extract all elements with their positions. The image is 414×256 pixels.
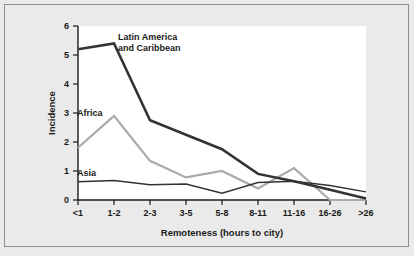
y-tick-label: 6 [64, 21, 69, 31]
x-tick-label: 8-11 [249, 208, 267, 218]
y-tick-label: 2 [64, 137, 69, 147]
y-axis-tick-labels: 0123456 [64, 21, 69, 205]
x-tick-label: 1-2 [107, 208, 120, 218]
y-tick-label: 1 [64, 166, 69, 176]
chart-svg: 0123456 <11-22-33-55-88-1111-1616-26>26 … [0, 0, 414, 256]
figure-container: 0123456 <11-22-33-55-88-1111-1616-26>26 … [0, 0, 414, 256]
x-tick-label: 11-16 [283, 208, 306, 218]
series-label-latin-america-and-caribbean: Latin America [118, 32, 178, 42]
x-tick-label: >26 [358, 208, 373, 218]
x-axis-ticks [78, 200, 366, 205]
y-tick-label: 5 [64, 50, 69, 60]
y-tick-label: 3 [64, 108, 69, 118]
x-tick-label: <1 [73, 208, 83, 218]
x-tick-label: 2-3 [143, 208, 156, 218]
series-label-latin-america-and-caribbean-line2: and Caribbean [118, 43, 181, 53]
x-axis-title: Remoteness (hours to city) [161, 227, 283, 238]
x-tick-label: 5-8 [215, 208, 228, 218]
x-tick-label: 3-5 [179, 208, 192, 218]
x-axis-tick-labels: <11-22-33-55-88-1111-1616-26>26 [73, 208, 374, 218]
y-tick-label: 0 [64, 195, 69, 205]
line-chart: 0123456 <11-22-33-55-88-1111-1616-26>26 … [0, 0, 414, 256]
series-label-asia: Asia [77, 168, 97, 178]
y-axis-title: Incidence [46, 91, 57, 135]
y-tick-label: 4 [64, 79, 69, 89]
series-label-africa: Africa [77, 108, 104, 118]
x-tick-label: 16-26 [318, 208, 341, 218]
